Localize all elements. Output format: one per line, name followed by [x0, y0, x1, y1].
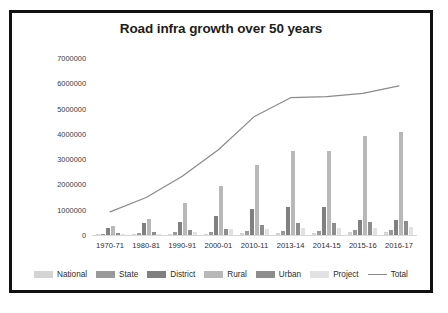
- y-axis-tick-label: 2000000: [57, 180, 86, 189]
- legend-label: National: [57, 270, 87, 279]
- x-axis-tick-label: 2013-14: [273, 241, 309, 257]
- x-axis-tick-label: 2014-15: [309, 241, 345, 257]
- y-axis-tick-label: 1000000: [57, 205, 86, 214]
- x-axis-tick-label: 2010-11: [236, 241, 272, 257]
- chart-title: Road infra growth over 50 years: [12, 21, 430, 36]
- y-axis-tick-label: 6000000: [57, 79, 86, 88]
- legend-label: District: [170, 270, 195, 279]
- x-axis-tick-label: 1970-71: [92, 241, 128, 257]
- x-axis-line: [92, 235, 417, 236]
- legend-label: State: [119, 270, 138, 279]
- x-axis-tick-label: 2000-01: [200, 241, 236, 257]
- y-axis-tick-label: 0: [82, 231, 86, 240]
- legend-label: Rural: [227, 270, 247, 279]
- y-axis-tick-label: 4000000: [57, 129, 86, 138]
- chart-legend: NationalStateDistrictRuralUrbanProjectTo…: [12, 265, 430, 283]
- legend-item-rural[interactable]: Rural: [204, 270, 247, 279]
- legend-label: Total: [391, 270, 408, 279]
- total-line-path: [110, 86, 399, 212]
- x-axis-tick-label: 2015-16: [345, 241, 381, 257]
- legend-label: Project: [333, 270, 358, 279]
- legend-color-swatch: [34, 271, 53, 278]
- y-axis-tick-label: 3000000: [57, 155, 86, 164]
- plot-area: [92, 58, 417, 235]
- chart-frame: Road infra growth over 50 years 70000006…: [9, 10, 433, 293]
- y-axis-labels: 7000000600000050000004000000300000020000…: [12, 58, 86, 235]
- legend-item-state[interactable]: State: [96, 270, 138, 279]
- legend-color-swatch: [147, 271, 166, 278]
- x-axis-tick-label: 1990-91: [164, 241, 200, 257]
- legend-color-swatch: [204, 271, 223, 278]
- legend-item-urban[interactable]: Urban: [256, 270, 301, 279]
- legend-item-project[interactable]: Project: [310, 270, 358, 279]
- x-axis-tick-label: 1980-81: [128, 241, 164, 257]
- y-axis-tick-label: 5000000: [57, 104, 86, 113]
- legend-item-total[interactable]: Total: [368, 270, 408, 279]
- legend-label: Urban: [279, 270, 301, 279]
- total-line-series: [92, 58, 417, 235]
- legend-item-national[interactable]: National: [34, 270, 87, 279]
- legend-color-swatch: [96, 271, 115, 278]
- y-axis-tick-label: 7000000: [57, 54, 86, 63]
- x-axis-tick-label: 2016-17: [381, 241, 417, 257]
- legend-color-swatch: [310, 271, 329, 278]
- legend-line-marker: [368, 274, 387, 275]
- legend-color-swatch: [256, 271, 275, 278]
- chart-canvas: Road infra growth over 50 years 70000006…: [12, 13, 430, 290]
- x-axis-labels: 1970-711980-811990-912000-012010-112013-…: [92, 241, 417, 257]
- legend-item-district[interactable]: District: [147, 270, 195, 279]
